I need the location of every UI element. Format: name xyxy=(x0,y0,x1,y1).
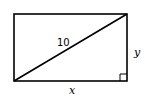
right-angle-marker xyxy=(120,74,127,81)
rectangle-diagram: 10 y x xyxy=(0,0,145,102)
diagonal-line xyxy=(14,14,127,81)
diagonal-label: 10 xyxy=(57,37,70,48)
width-label: x xyxy=(69,84,76,97)
height-label: y xyxy=(133,46,141,59)
